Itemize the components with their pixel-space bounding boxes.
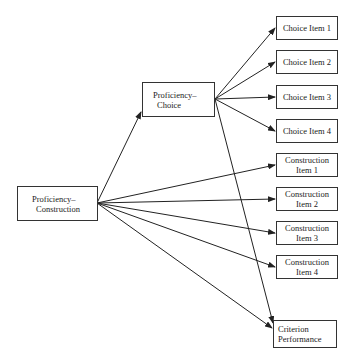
node-label: Performance: [278, 334, 336, 344]
node-label: Construction: [285, 189, 329, 199]
node-construction-item-3: Construction Item 3: [276, 221, 338, 245]
node-label: Item 4: [296, 267, 318, 277]
node-label: Proficiency–: [32, 194, 97, 204]
node-label: Construction: [285, 155, 329, 165]
node-construction-item-1: Construction Item 1: [276, 153, 338, 177]
node-proficiency-choice: Proficiency– Choice: [142, 82, 215, 117]
node-label: Construction: [285, 223, 329, 233]
node-label: Item 2: [296, 199, 318, 209]
node-label: Construction: [285, 257, 329, 267]
node-label: Item 1: [296, 165, 318, 175]
node-choice-item-4: Choice Item 4: [276, 119, 338, 143]
node-construction-item-2: Construction Item 2: [276, 187, 338, 211]
node-label: Choice: [153, 100, 214, 110]
node-choice-item-1: Choice Item 1: [276, 16, 338, 40]
node-label: Item 3: [296, 233, 318, 243]
node-label: Choice Item 1: [283, 23, 331, 33]
node-label: Construction: [32, 204, 97, 214]
node-label: Choice Item 3: [283, 92, 331, 102]
node-label: Proficiency–: [153, 90, 214, 100]
node-criterion-performance: Criterion Performance: [273, 320, 337, 348]
node-choice-item-3: Choice Item 3: [276, 85, 338, 109]
node-construction-item-4: Construction Item 4: [276, 255, 338, 279]
node-choice-item-2: Choice Item 2: [276, 50, 338, 74]
node-label: Criterion: [278, 324, 336, 334]
node-label: Choice Item 2: [283, 57, 331, 67]
node-proficiency-construction: Proficiency– Construction: [17, 186, 98, 221]
node-label: Choice Item 4: [283, 126, 331, 136]
